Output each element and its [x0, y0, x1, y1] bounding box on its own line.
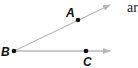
ray-ba — [14, 5, 110, 51]
point-c — [84, 49, 89, 54]
label-c: C — [83, 55, 92, 68]
cut-off-text: ar — [127, 0, 138, 15]
point-b — [12, 49, 17, 54]
label-a: A — [65, 6, 75, 20]
angle-diagram: B A C ar — [0, 0, 138, 68]
point-a — [76, 18, 81, 23]
label-b: B — [1, 45, 10, 59]
